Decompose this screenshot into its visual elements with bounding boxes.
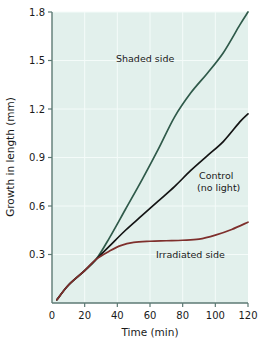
annotation-control-line1: Control xyxy=(199,170,233,181)
x-tick-label: 100 xyxy=(206,310,225,321)
x-tick-label: 120 xyxy=(238,310,257,321)
y-axis-title: Growth in length (mm) xyxy=(4,97,16,217)
x-tick-label: 40 xyxy=(111,310,124,321)
y-tick-label: 0.6 xyxy=(29,201,45,212)
x-tick-label: 20 xyxy=(78,310,91,321)
growth-vs-time-line-chart: 0.30.60.91.21.51.8 020406080100120 Growt… xyxy=(0,0,268,352)
y-tick-label: 1.5 xyxy=(29,55,45,66)
x-tick-label: 0 xyxy=(49,310,55,321)
y-axis-ticks: 0.30.60.91.21.51.8 xyxy=(29,7,52,261)
x-axis-title: Time (min) xyxy=(120,326,178,338)
chart-figure: 0.30.60.91.21.51.8 020406080100120 Growt… xyxy=(0,0,268,352)
y-tick-label: 1.8 xyxy=(29,7,45,18)
y-tick-label: 0.3 xyxy=(29,249,45,260)
annotation-shaded-side: Shaded side xyxy=(116,53,174,64)
x-tick-label: 80 xyxy=(176,310,189,321)
x-axis-ticks: 020406080100120 xyxy=(49,303,258,321)
annotation-irradiated-side: Irradiated side xyxy=(156,249,225,260)
y-tick-label: 0.9 xyxy=(29,152,45,163)
annotation-control-line2: (no light) xyxy=(197,182,240,193)
y-tick-label: 1.2 xyxy=(29,104,45,115)
x-tick-label: 60 xyxy=(144,310,157,321)
